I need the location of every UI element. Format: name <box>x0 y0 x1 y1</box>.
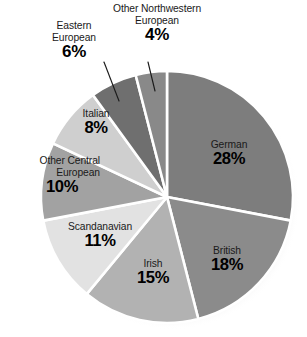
slice-value-british: 18% <box>196 256 258 274</box>
slice-label-german: German 28% <box>192 139 266 168</box>
slice-value-german: 28% <box>192 150 266 168</box>
slice-label-other-northwestern-european: Other Northwestern European 4% <box>98 3 216 45</box>
slice-name-other-northwestern-european-line1: Other Northwestern <box>98 3 216 15</box>
slice-value-other-central-european: 10% <box>6 178 100 196</box>
slice-value-irish: 15% <box>124 269 182 287</box>
slice-label-irish: Irish 15% <box>124 258 182 287</box>
pie-chart: German 28% British 18% Irish 15% Scandan… <box>0 0 307 337</box>
slice-label-scandanavian: Scandanavian 11% <box>52 221 148 250</box>
slice-label-italian: Italian 8% <box>65 108 127 137</box>
slice-name-other-central-european-line1: Other Central <box>6 155 100 167</box>
slice-label-other-central-european: Other Central European 10% <box>6 155 100 196</box>
slice-label-british: British 18% <box>196 245 258 274</box>
slice-value-other-northwestern-european: 4% <box>98 26 216 44</box>
slice-value-italian: 8% <box>65 119 127 137</box>
slice-value-scandanavian: 11% <box>52 232 148 250</box>
slice-value-eastern-european: 6% <box>32 43 116 61</box>
